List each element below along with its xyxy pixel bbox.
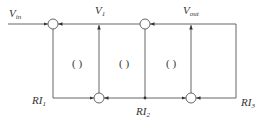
summing-junction-bottom-left bbox=[94, 93, 104, 103]
summing-junction-bottom-right bbox=[186, 93, 196, 103]
label-vout: Vout bbox=[183, 5, 199, 18]
label-vin: Vin bbox=[9, 8, 21, 21]
blank-2: ( ) bbox=[119, 58, 129, 69]
label-ri2: RI2 bbox=[136, 106, 150, 119]
label-ri1: RI1 bbox=[32, 95, 46, 108]
blank-1: ( ) bbox=[72, 58, 82, 69]
summing-junction-top-left bbox=[48, 19, 58, 29]
block-diagram bbox=[0, 0, 265, 131]
summing-junction-top-right bbox=[140, 19, 150, 29]
label-ri3: RI3 bbox=[241, 97, 255, 110]
ri2-node-dot bbox=[144, 97, 147, 100]
label-v1: V1 bbox=[95, 5, 105, 18]
blank-3: ( ) bbox=[166, 58, 176, 69]
